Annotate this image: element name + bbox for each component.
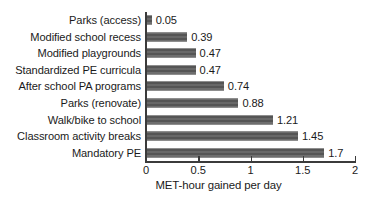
bar-value-label: 1.21: [277, 114, 298, 126]
bar-row: Modified playgrounds0.47: [0, 45, 373, 62]
bar-row: Standardized PE curricula0.47: [0, 62, 373, 79]
category-label: Standardized PE curricula: [15, 64, 141, 76]
bar-value-label: 0.47: [200, 47, 221, 59]
y-axis-line: [145, 12, 147, 162]
bar-row: After school PA programs0.74: [0, 78, 373, 95]
bar-chart: Parks (access)0.05Modified school recess…: [0, 0, 373, 202]
bar: [147, 132, 299, 141]
bar-row: Modified school recess0.39: [0, 29, 373, 46]
bar-value-label: 0.39: [191, 31, 212, 43]
bar: [147, 99, 239, 108]
category-label: Parks (access): [69, 14, 141, 26]
x-axis-tick: [355, 156, 356, 162]
bar-value-label: 1.7: [328, 147, 343, 159]
bars-container: Parks (access)0.05Modified school recess…: [0, 12, 373, 161]
bar: [147, 32, 188, 41]
category-label: Classroom activity breaks: [17, 130, 141, 142]
x-axis-tick: [251, 156, 252, 162]
x-axis-tick-label: 0: [143, 164, 149, 176]
category-label: Modified school recess: [30, 31, 141, 43]
bar-value-label: 1.45: [302, 130, 323, 142]
x-axis-tick: [303, 156, 304, 162]
bar: [147, 115, 273, 124]
bar: [147, 82, 224, 91]
bar-row: Parks (renovate)0.88: [0, 95, 373, 112]
bar: [147, 16, 152, 25]
x-axis-title: MET-hour gained per day: [0, 179, 373, 191]
x-axis-tick-label: 2: [352, 164, 358, 176]
x-axis-tick: [146, 156, 147, 162]
category-label: Parks (renovate): [61, 97, 141, 109]
bar: [147, 148, 325, 157]
bar-row: Parks (access)0.05: [0, 12, 373, 29]
x-axis-tick: [198, 156, 199, 162]
bar-value-label: 0.88: [242, 97, 263, 109]
bar: [147, 65, 196, 74]
bar-row: Mandatory PE1.7: [0, 144, 373, 161]
category-label: Walk/bike to school: [48, 114, 141, 126]
bar-row: Classroom activity breaks1.45: [0, 128, 373, 145]
x-axis-tick-label: 1: [247, 164, 253, 176]
bar: [147, 49, 196, 58]
category-label: Modified playgrounds: [38, 47, 141, 59]
x-axis-tick-label: 1.5: [295, 164, 310, 176]
bar-row: Walk/bike to school1.21: [0, 111, 373, 128]
category-label: After school PA programs: [18, 80, 141, 92]
bar-value-label: 0.47: [200, 64, 221, 76]
x-axis-tick-label: 0.5: [191, 164, 206, 176]
category-label: Mandatory PE: [72, 147, 141, 159]
x-axis-title-text: MET-hour gained per day: [155, 179, 281, 191]
bar-value-label: 0.74: [228, 80, 249, 92]
bar-value-label: 0.05: [156, 14, 177, 26]
